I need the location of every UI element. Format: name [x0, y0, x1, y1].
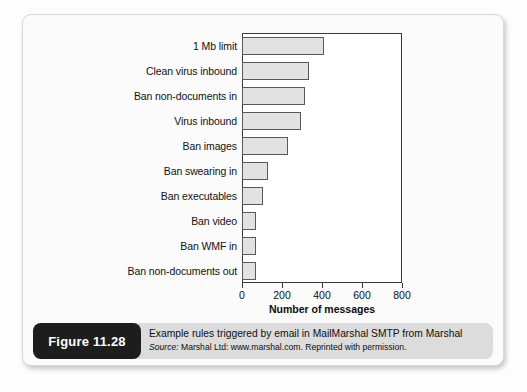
bar [242, 87, 305, 105]
figure-number-tag: Figure 11.28 [33, 323, 141, 359]
category-label: Ban non-documents out [23, 265, 237, 277]
bar-row [242, 158, 402, 183]
bar [242, 187, 263, 205]
figure-caption: Example rules triggered by email in Mail… [149, 327, 485, 353]
bar-row [242, 58, 402, 83]
x-tick-label: 0 [239, 289, 245, 301]
bar [242, 137, 288, 155]
category-label: Ban WMF in [23, 240, 237, 252]
category-label: Clean virus inbound [23, 65, 237, 77]
category-label: Ban video [23, 215, 237, 227]
x-tick [362, 283, 363, 288]
caption-source-rest: Marshal Ltd: www.marshal.com. Reprinted … [179, 342, 407, 352]
bar-row [242, 83, 402, 108]
figure-caption-bar: Figure 11.28 Example rules triggered by … [33, 323, 493, 359]
bar [242, 262, 256, 280]
x-tick [282, 283, 283, 288]
category-label: Ban executables [23, 190, 237, 202]
bar [242, 62, 309, 80]
x-tick-label: 800 [393, 289, 411, 301]
category-label: 1 Mb limit [23, 40, 237, 52]
x-tick-label: 200 [273, 289, 291, 301]
figure-panel: 1 Mb limitClean virus inboundBan non-doc… [22, 14, 504, 366]
bar-row [242, 233, 402, 258]
caption-title: Example rules triggered by email in Mail… [149, 327, 485, 340]
bar [242, 37, 324, 55]
x-tick [402, 283, 403, 288]
bar-row [242, 133, 402, 158]
category-label: Virus inbound [23, 115, 237, 127]
bar [242, 162, 268, 180]
bar [242, 237, 256, 255]
bar [242, 112, 301, 130]
bar-row [242, 33, 402, 58]
x-tick [242, 283, 243, 288]
bar-row [242, 108, 402, 133]
bar-row [242, 258, 402, 283]
bar [242, 212, 256, 230]
x-axis-title: Number of messages [242, 303, 402, 315]
category-axis-labels: 1 Mb limitClean virus inboundBan non-doc… [23, 33, 237, 283]
x-tick-label: 400 [313, 289, 331, 301]
bar-row [242, 208, 402, 233]
caption-source-prefix: Source: [149, 342, 179, 352]
x-tick-label: 600 [353, 289, 371, 301]
category-label: Ban non-documents in [23, 90, 237, 102]
x-tick [322, 283, 323, 288]
category-label: Ban swearing in [23, 165, 237, 177]
bar-series [242, 33, 402, 283]
caption-source: Source: Marshal Ltd: www.marshal.com. Re… [149, 341, 485, 353]
bar-chart: 1 Mb limitClean virus inboundBan non-doc… [23, 15, 505, 311]
bar-row [242, 183, 402, 208]
category-label: Ban images [23, 140, 237, 152]
x-axis-tick-labels: 0200400600800 [242, 289, 402, 303]
figure-page: 1 Mb limitClean virus inboundBan non-doc… [0, 0, 527, 392]
